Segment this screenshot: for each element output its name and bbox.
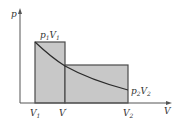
tick-label-v1: V1 xyxy=(30,108,40,119)
y-axis-arrow-icon xyxy=(18,8,22,14)
state2-label: p2V2 xyxy=(131,86,151,97)
y-axis-label: p xyxy=(11,9,17,19)
state1-label: p1V1 xyxy=(40,30,60,41)
x-axis-arrow-icon xyxy=(166,101,172,105)
pv-diagram: p V p1V1 p2V2 V1 V′ V2 xyxy=(0,0,180,128)
left-rectangle-area xyxy=(35,42,65,103)
tick-label-v2: V2 xyxy=(123,108,134,119)
x-axis-label: V xyxy=(164,106,172,116)
tick-label-v-prime: V′ xyxy=(59,107,68,118)
